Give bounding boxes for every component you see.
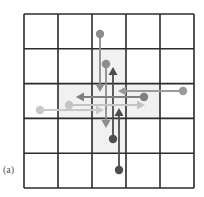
start-dot (102, 60, 110, 68)
start-dot (109, 135, 117, 143)
shaded-cell (92, 118, 126, 153)
vector-grid-diagram (0, 0, 204, 197)
shaded-cell (58, 84, 92, 119)
start-dot (65, 101, 73, 109)
start-dot (96, 30, 104, 38)
start-dot (36, 106, 44, 114)
start-dot (179, 87, 187, 95)
start-dot (115, 166, 123, 174)
figure-label: (a) (3, 164, 14, 175)
start-dot (140, 93, 148, 101)
